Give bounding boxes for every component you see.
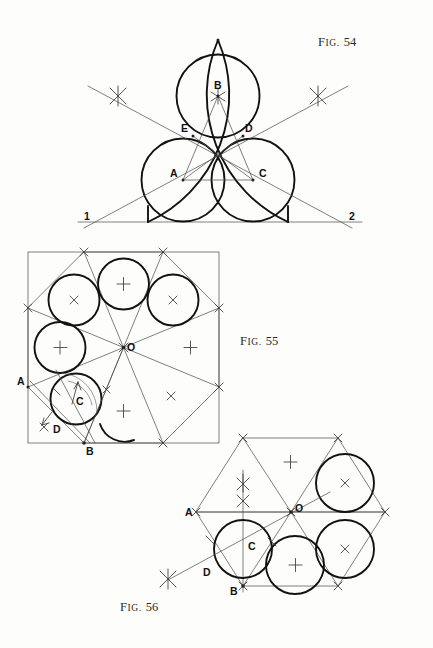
fig54-point-d: [242, 135, 245, 138]
fig56-mark-x-lower-right: [341, 545, 349, 553]
fig55-mark-x-upper-right: [169, 296, 177, 304]
fig55-mark-x-lower-right: [167, 392, 175, 400]
fig55-label-c: C: [76, 395, 84, 407]
fig56-caption-smallcaps: IG.: [128, 603, 142, 613]
fig54-cross-right: [310, 86, 326, 106]
fig56-label-d: D: [203, 566, 211, 578]
fig55-point-a: [27, 386, 30, 389]
fig55-mark-plus-left: [54, 341, 67, 354]
fig55-arrow-d: [42, 412, 52, 425]
fig56-label-b: B: [230, 585, 238, 597]
figure-page: .hv { fill:none; stroke:#121212; stroke-…: [0, 0, 433, 648]
fig55-label-b: B: [86, 445, 94, 457]
fig55-caption-smallcaps: IG.: [248, 337, 262, 347]
fig54-label-e: E: [181, 122, 188, 134]
fig55-circle-arc-lower: [100, 424, 134, 442]
fig54-caption-prefix: FIG.: [318, 35, 340, 49]
fig55-label-d: D: [53, 423, 61, 435]
fig54-point-b: [217, 95, 220, 98]
fig56-label-o: O: [295, 502, 303, 514]
fig55-line-bo: [84, 348, 124, 444]
fig54-point-e: [192, 135, 195, 138]
fig56-caption-prefix: FIG.: [120, 600, 142, 614]
fig54-label-c: C: [259, 167, 267, 179]
fig54-caption: FIG.54: [318, 32, 356, 50]
fig54-apex: [217, 39, 220, 42]
fig55-caption: FIG.55: [240, 331, 278, 349]
fig54-point-a: [182, 179, 185, 182]
fig56-drawing: A O C D B: [160, 434, 389, 597]
fig56-cross-end: [160, 569, 176, 589]
fig56-point-b: [241, 584, 245, 588]
fig56-label-c: C: [248, 540, 256, 552]
fig56-label-a: A: [185, 506, 193, 518]
fig54-label-a: A: [170, 167, 178, 179]
fig56-point-o: [289, 510, 293, 514]
fig55-mark-x-upper-left: [70, 296, 78, 304]
fig56-caption: FIG.56: [120, 597, 158, 615]
fig55-mark-plus-bottom: [117, 405, 130, 418]
fig54-caption-number: 54: [344, 35, 357, 49]
fig54-label-one: 1: [84, 210, 90, 222]
fig56-mark-plus-bottom: [289, 559, 302, 572]
fig55-label-o: O: [127, 341, 135, 353]
fig55-mark-plus-top: [117, 278, 130, 291]
fig55-point-o: [122, 346, 126, 350]
fig54-drawing: B E D A C 1 2: [78, 39, 362, 229]
fig55-drawing: O A C D B: [17, 248, 223, 457]
fig54-label-d: D: [245, 122, 253, 134]
plate-drawing: .hv { fill:none; stroke:#121212; stroke-…: [0, 0, 433, 648]
fig54-point-c: [252, 179, 255, 182]
fig55-caption-prefix: FIG.: [240, 334, 262, 348]
fig54-caption-smallcaps: IG.: [326, 38, 340, 48]
fig56-caption-number: 56: [146, 600, 159, 614]
fig55-mark-plus-right: [184, 341, 197, 354]
fig54-label-b: B: [214, 79, 222, 91]
fig56-mark-plus-top: [284, 456, 297, 469]
fig55-label-a: A: [17, 375, 25, 387]
fig54-cross-left: [110, 86, 126, 106]
fig54-label-two: 2: [349, 210, 355, 222]
fig55-caption-number: 55: [266, 334, 279, 348]
fig56-mark-x-upper-right: [341, 479, 349, 487]
